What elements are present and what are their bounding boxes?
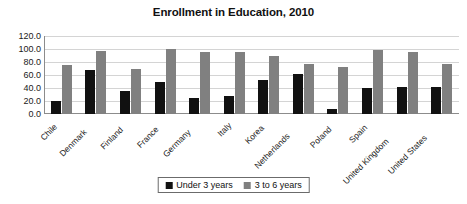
bar[interactable]	[362, 88, 372, 114]
bar-group	[286, 36, 321, 114]
bar[interactable]	[269, 56, 279, 115]
bar[interactable]	[166, 49, 176, 114]
bar[interactable]	[155, 82, 165, 115]
bar[interactable]	[258, 80, 268, 114]
bar-group	[321, 36, 356, 114]
bar[interactable]	[189, 98, 199, 114]
y-axis-tick: 0.0	[28, 110, 41, 119]
bar[interactable]	[96, 51, 106, 114]
chart-title: Enrollment in Education, 2010	[0, 6, 467, 18]
y-axis-tick: 40.0	[23, 84, 41, 93]
legend-label: 3 to 6 years	[255, 180, 302, 190]
legend-item[interactable]: Under 3 years	[165, 180, 233, 190]
x-axis-label-cell: Germany	[182, 115, 217, 171]
bar[interactable]	[51, 101, 61, 114]
bar[interactable]	[327, 109, 337, 114]
x-axis-tick-label: Italy	[229, 111, 246, 128]
bar-groups	[44, 36, 459, 114]
bar[interactable]	[224, 96, 234, 114]
y-axis-tick: 120.0	[18, 32, 41, 41]
bar[interactable]	[62, 65, 72, 114]
bar-group	[113, 36, 148, 114]
bar[interactable]	[293, 74, 303, 114]
bar-chart: Enrollment in Education, 2010 0.020.040.…	[0, 0, 467, 204]
y-axis-tick: 60.0	[23, 71, 41, 80]
x-axis-label-cell: United States	[424, 115, 459, 171]
bar-group	[182, 36, 217, 114]
bar-group	[148, 36, 183, 114]
chart-legend: Under 3 years3 to 6 years	[157, 177, 310, 193]
y-axis-tick: 100.0	[18, 45, 41, 54]
bar[interactable]	[85, 70, 95, 114]
bar[interactable]	[200, 52, 210, 114]
bar[interactable]	[408, 52, 418, 114]
bar-group	[44, 36, 79, 114]
bar-group	[217, 36, 252, 114]
y-axis-tick: 20.0	[23, 97, 41, 106]
legend-label: Under 3 years	[176, 180, 233, 190]
bar[interactable]	[397, 87, 407, 114]
x-axis-tick-text: Chile	[39, 122, 59, 142]
bar[interactable]	[235, 52, 245, 114]
bar[interactable]	[120, 91, 130, 114]
y-axis-tick: 80.0	[23, 58, 41, 67]
bar-group	[355, 36, 390, 114]
bar-group	[79, 36, 114, 114]
bar-group	[251, 36, 286, 114]
legend-item[interactable]: 3 to 6 years	[244, 180, 302, 190]
bar[interactable]	[373, 50, 383, 114]
y-axis-labels: 0.020.040.060.080.0100.0120.0	[0, 36, 41, 114]
x-axis-label-cell: Poland	[321, 115, 356, 171]
legend-swatch-icon	[165, 182, 172, 189]
legend-swatch-icon	[244, 182, 251, 189]
x-axis-tick-text: Italy	[216, 121, 233, 138]
bar-group	[390, 36, 425, 114]
x-axis-labels: ChileDenmarkFinlandFranceGermanyItalyKor…	[44, 115, 459, 171]
